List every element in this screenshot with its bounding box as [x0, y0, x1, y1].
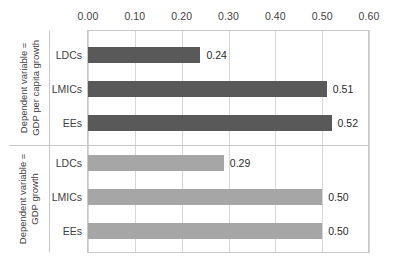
x-axis-tick-labels: 0.000.100.200.300.400.500.60: [0, 10, 394, 28]
bar-lmics-gdp: [88, 189, 322, 205]
category-label-ldcs: LDCs: [10, 49, 87, 61]
bar-ees-per-capita: [88, 115, 332, 131]
category-label-lmics: LMICs: [10, 191, 87, 203]
bar-value-label: 0.29: [230, 157, 250, 169]
bar-value-label: 0.50: [328, 225, 348, 237]
bar-ees-gdp: [88, 223, 322, 239]
x-tick-label: 0.10: [124, 10, 145, 22]
x-tick-label: 0.00: [78, 10, 99, 22]
group-divider-line: [9, 145, 369, 146]
gridline: [369, 30, 370, 253]
x-tick-label: 0.30: [218, 10, 239, 22]
bar-ldcs-per-capita: [88, 47, 200, 63]
bar-value-label: 0.51: [333, 83, 353, 95]
category-label-ees: EEs: [10, 225, 87, 237]
x-tick-label: 0.60: [359, 10, 380, 22]
bar-lmics-per-capita: [88, 81, 327, 97]
x-tick-label: 0.20: [171, 10, 192, 22]
x-tick-label: 0.40: [265, 10, 286, 22]
bar-value-label: 0.24: [206, 49, 226, 61]
x-tick-label: 0.50: [312, 10, 333, 22]
category-label-lmics: LMICs: [10, 83, 87, 95]
bar-chart: 0.000.100.200.300.400.500.60 Dependent v…: [0, 0, 394, 267]
category-label-ees: EEs: [10, 117, 87, 129]
category-label-ldcs: LDCs: [10, 157, 87, 169]
bar-value-label: 0.52: [338, 117, 358, 129]
bar-ldcs-gdp: [88, 155, 224, 171]
bar-value-label: 0.50: [328, 191, 348, 203]
